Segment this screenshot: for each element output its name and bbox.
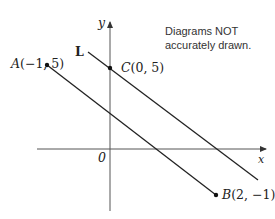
label-a: A(−1, 5) <box>10 56 64 71</box>
origin-label: 0 <box>98 150 106 165</box>
x-axis-label: x <box>258 153 265 166</box>
coordinate-diagram: y x 0 A(−1, 5) C(0, 5) B(2, −1) L Diagra… <box>0 0 275 219</box>
diagram-note-line2: accurately drawn. <box>165 39 251 51</box>
label-b: B(2, −1) <box>221 187 275 202</box>
label-c: C(0, 5) <box>121 60 164 75</box>
diagram-note-line1: Diagrams NOT <box>165 25 239 37</box>
y-axis-label: y <box>97 15 106 30</box>
point-c <box>108 66 112 70</box>
label-line-l: L <box>75 44 84 59</box>
point-b <box>214 193 218 197</box>
